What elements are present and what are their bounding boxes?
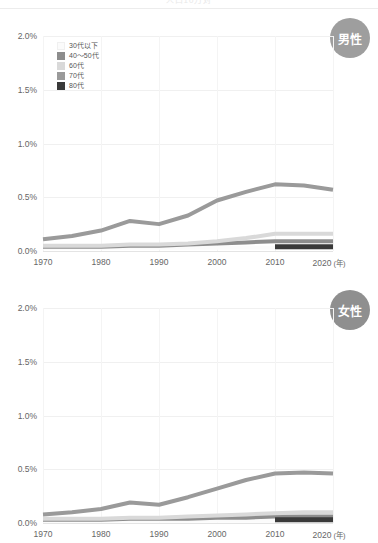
data-series-line — [43, 184, 333, 239]
x-axis-tick-value: 1990 — [150, 529, 169, 539]
x-axis-tick-value: 1990 — [150, 257, 169, 267]
x-axis-tick-label: 2000 — [208, 529, 227, 539]
y-gridline — [43, 251, 333, 252]
x-axis-tick-value: 1970 — [34, 529, 53, 539]
y-axis-tick-label: 0.5% — [18, 192, 37, 202]
x-gridline — [333, 36, 334, 251]
x-axis-tick-label: 2020 (年) — [313, 529, 346, 540]
data-series-line — [43, 472, 333, 514]
panel-male: 男性 30代以下40〜50代60代70代80代 2.0%1.5%1.0%0.5%… — [0, 8, 378, 280]
y-axis-tick-label: 0.5% — [18, 464, 37, 474]
x-axis-tick-label: 1970 — [34, 257, 53, 267]
badge-female: 女性 — [330, 290, 370, 330]
panel-female: 女性 2.0%1.5%1.0%0.5%0.0%19701980199020002… — [0, 280, 378, 543]
y-axis-tick-label: 2.0% — [18, 303, 37, 313]
x-axis-tick-value: 1980 — [92, 257, 111, 267]
y-axis-tick-label: 1.5% — [18, 85, 37, 95]
x-axis-tick-value: 2000 — [208, 529, 227, 539]
x-axis-tick-value: 2010 — [266, 257, 285, 267]
plot-area-male: 2.0%1.5%1.0%0.5%0.0%19701980199020002010… — [43, 36, 333, 251]
y-axis-tick-label: 1.0% — [18, 411, 37, 421]
cropped-title: 人口10万対 — [166, 0, 213, 5]
badge-female-label: 女性 — [338, 302, 363, 319]
x-axis-tick-label: 2000 — [208, 257, 227, 267]
x-axis-tick-label: 1990 — [150, 529, 169, 539]
x-gridline — [333, 308, 334, 523]
x-axis-tick-value: 2010 — [266, 529, 285, 539]
badge-male-label: 男性 — [338, 30, 363, 47]
x-axis-tick-label: 2020 (年) — [313, 257, 346, 268]
chart-page: 人口10万対 男性 30代以下40〜50代60代70代80代 2.0%1.5%1… — [0, 0, 378, 543]
x-axis-unit-label: (年) — [331, 259, 345, 268]
x-axis-tick-label: 1980 — [92, 257, 111, 267]
x-axis-tick-value: 1970 — [34, 257, 53, 267]
x-axis-tick-label: 2010 — [266, 529, 285, 539]
x-axis-tick-label: 1990 — [150, 257, 169, 267]
plot-area-female: 2.0%1.5%1.0%0.5%0.0%19701980199020002010… — [43, 308, 333, 523]
x-axis-tick-value: 2020 — [313, 258, 332, 268]
x-axis-tick-label: 1970 — [34, 529, 53, 539]
y-axis-tick-label: 2.0% — [18, 31, 37, 41]
badge-male: 男性 — [330, 18, 370, 58]
series-layer — [43, 308, 333, 523]
x-axis-tick-label: 2010 — [266, 257, 285, 267]
x-axis-tick-value: 1980 — [92, 529, 111, 539]
y-axis-tick-label: 0.0% — [18, 246, 37, 256]
x-axis-tick-label: 1980 — [92, 529, 111, 539]
x-axis-unit-label: (年) — [331, 531, 345, 540]
x-axis-tick-value: 2020 — [313, 530, 332, 540]
series-layer — [43, 36, 333, 251]
x-axis-tick-value: 2000 — [208, 257, 227, 267]
y-axis-tick-label: 1.5% — [18, 357, 37, 367]
y-gridline — [43, 523, 333, 524]
y-axis-tick-label: 1.0% — [18, 139, 37, 149]
y-axis-tick-label: 0.0% — [18, 518, 37, 528]
